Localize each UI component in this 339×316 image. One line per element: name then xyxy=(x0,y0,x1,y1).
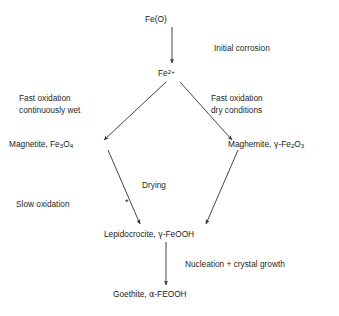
node-lepidocrocite: Lepidocrocite, γ-FeOOH xyxy=(104,229,194,240)
edge-label-drying: Drying xyxy=(142,180,166,191)
node-goethite: Goethite, α-FEOOH xyxy=(113,289,187,300)
node-magnetite-name: Magnetite, Fe xyxy=(9,139,60,149)
asterisk-marker: * xyxy=(125,198,129,207)
arrow-maghemite-to-lepidocrocite xyxy=(206,150,238,224)
node-lepidocrocite-formula: -FeOOH xyxy=(163,229,194,239)
edge-label-fast-oxidation-dry: Fast oxidation dry conditions xyxy=(211,93,263,116)
arrow-magnetite-to-lepidocrocite xyxy=(108,150,140,224)
corrosion-pathway-diagram: Fe(O) Fe2+ Magnetite, Fe3O4 Maghemite, γ… xyxy=(0,0,339,316)
node-fe-zero-label: Fe(O) xyxy=(145,14,167,24)
node-fe-two-plus-base: Fe xyxy=(158,68,168,78)
node-maghemite: Maghemite, γ-Fe2O3 xyxy=(228,139,304,151)
edge-label-initial-corrosion: Initial corrosion xyxy=(214,43,270,54)
node-magnetite: Magnetite, Fe3O4 xyxy=(9,139,73,151)
edge-label-slow-oxidation: Slow oxidation xyxy=(16,199,70,210)
node-maghemite-sub-3: 3 xyxy=(301,142,304,149)
arrow-fe2-to-magnetite xyxy=(104,82,166,140)
node-fe-zero: Fe(O) xyxy=(145,14,167,25)
node-lepidocrocite-name: Lepidocrocite, xyxy=(104,229,158,239)
node-fe-two-plus-superscript: 2+ xyxy=(168,68,175,75)
node-goethite-formula: -FEOOH xyxy=(154,289,186,299)
node-goethite-name: Goethite, xyxy=(113,289,149,299)
node-maghemite-name: Maghemite, xyxy=(228,139,274,149)
edge-label-fast-oxidation-wet: Fast oxidation continuously wet xyxy=(19,93,80,116)
edge-label-nucleation-crystal-growth: Nucleation + crystal growth xyxy=(185,259,285,270)
node-magnetite-sub-4: 4 xyxy=(70,142,73,149)
node-maghemite-formula: -Fe xyxy=(278,139,290,149)
arrow-layer xyxy=(0,0,339,316)
node-fe-two-plus: Fe2+ xyxy=(158,66,175,79)
